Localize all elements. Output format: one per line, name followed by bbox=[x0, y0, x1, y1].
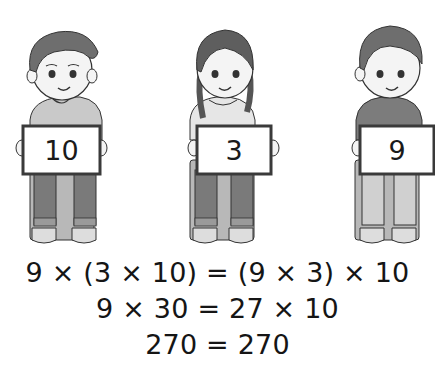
sign-number: 10 bbox=[23, 137, 100, 164]
child-boy-left: 10 bbox=[0, 0, 145, 250]
sign-number: 3 bbox=[197, 137, 271, 164]
boy-right-illustration bbox=[290, 0, 435, 250]
boy-left-illustration bbox=[0, 0, 145, 250]
equation-line-3: 270 = 270 bbox=[0, 331, 435, 358]
equation-line-1: 9 × (3 × 10) = (9 × 3) × 10 bbox=[0, 259, 435, 286]
child-girl-middle: 3 bbox=[145, 0, 290, 250]
sign-number: 9 bbox=[360, 137, 434, 164]
girl-illustration bbox=[145, 0, 290, 250]
equation-line-2: 9 × 30 = 27 × 10 bbox=[0, 295, 435, 322]
child-boy-right: 9 bbox=[290, 0, 435, 250]
